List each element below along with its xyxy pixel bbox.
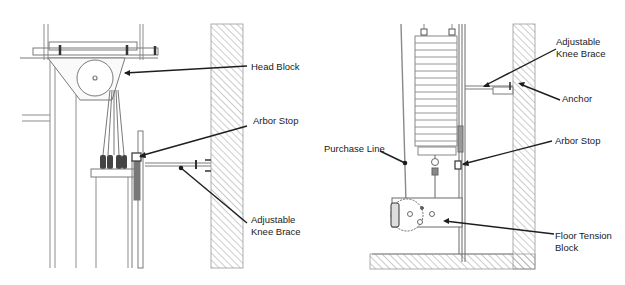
- cable-clamps: [100, 155, 127, 169]
- rigging-diagram: [0, 0, 625, 285]
- label-knee-brace-right-1: Adjustable: [556, 36, 600, 47]
- floor: [370, 254, 535, 269]
- label-head-block: Head Block: [251, 61, 300, 72]
- counterweight-arbor: [415, 24, 457, 155]
- head-block: [20, 42, 158, 100]
- knee-brace: [145, 160, 211, 171]
- right-view: [370, 24, 560, 269]
- label-knee-brace-left-2: Knee Brace: [251, 226, 301, 237]
- label-floor-tension-2: Block: [555, 242, 578, 253]
- label-knee-brace-right-2: Knee Brace: [556, 48, 606, 59]
- floor-tension-block: [391, 198, 462, 231]
- guide-rail: [132, 131, 143, 268]
- label-knee-brace-left-1: Adjustable: [251, 214, 295, 225]
- label-arbor-stop-right: Arbor Stop: [555, 135, 600, 146]
- left-wall: [211, 24, 243, 268]
- left-view: [20, 24, 247, 268]
- label-arbor-stop-left: Arbor Stop: [253, 115, 298, 126]
- label-floor-tension-1: Floor Tension: [555, 230, 612, 241]
- leader-arbor-stop-right: [463, 141, 552, 164]
- purchase-line: [401, 24, 406, 203]
- label-purchase-line: Purchase Line: [324, 143, 385, 154]
- arbor-stop-right: [455, 161, 461, 169]
- arbor-plate: [91, 169, 135, 177]
- label-anchor: Anchor: [562, 93, 592, 104]
